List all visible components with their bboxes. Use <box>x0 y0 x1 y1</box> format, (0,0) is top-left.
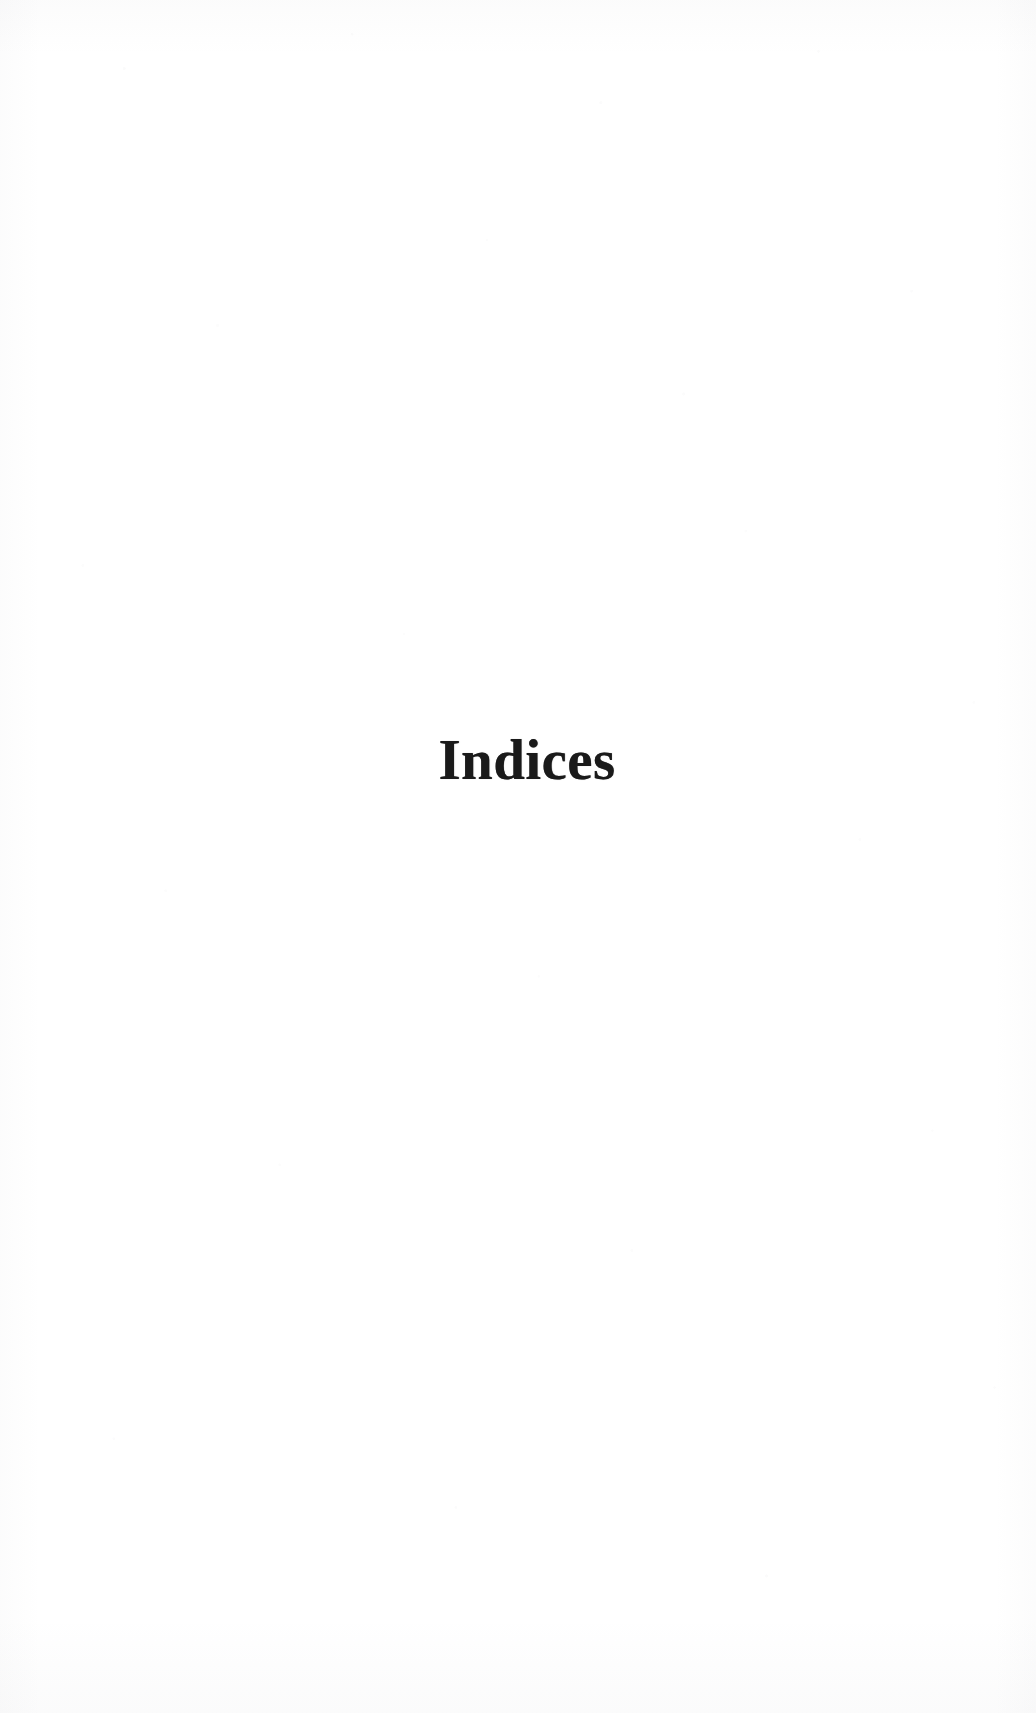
scan-edge-shading <box>0 0 1036 1713</box>
page-title: Indices <box>438 731 615 788</box>
section-title-block: Indices <box>0 731 1036 788</box>
paper-grain-texture <box>0 0 1036 1713</box>
scanned-page: Indices <box>0 0 1036 1713</box>
